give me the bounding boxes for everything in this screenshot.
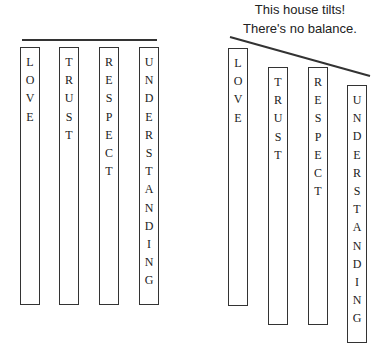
pillar-letter: N xyxy=(145,253,154,271)
pillar-letter: N xyxy=(353,109,362,127)
pillar-letter: I xyxy=(355,273,359,291)
pillar-letter: U xyxy=(274,109,283,127)
pillar-letter: I xyxy=(147,235,151,253)
pillar-letter: C xyxy=(314,164,322,182)
pillar-letter: O xyxy=(234,72,243,90)
pillar-word: RESPECT xyxy=(309,73,327,200)
pillar-letter: A xyxy=(353,218,362,236)
pillar-letter: P xyxy=(106,108,113,126)
balanced-house-pillar-trust: TRUST xyxy=(59,47,79,305)
pillar-letter: G xyxy=(145,271,154,289)
pillar-letter: N xyxy=(145,199,154,217)
pillar-letter: D xyxy=(145,217,154,235)
tilted-house-pillar-trust: TRUST xyxy=(268,67,288,325)
pillar-letter: R xyxy=(353,164,361,182)
pillar-letter: R xyxy=(65,71,73,89)
pillar-letter: S xyxy=(106,89,113,107)
pillar-letter: P xyxy=(315,128,322,146)
pillar-letter: E xyxy=(314,146,321,164)
pillar-word: LOVE xyxy=(21,53,39,126)
pillar-word: UNDERSTANDING xyxy=(348,91,366,328)
pillar-letter: R xyxy=(314,73,322,91)
tilted-house-pillar-respect: RESPECT xyxy=(308,67,328,325)
pillar-letter: A xyxy=(145,180,154,198)
pillar-letter: T xyxy=(353,200,360,218)
pillar-word: TRUST xyxy=(60,53,78,144)
pillar-letter: U xyxy=(65,89,74,107)
balanced-house-pillar-respect: RESPECT xyxy=(99,47,119,305)
tilted-house-pillar-love: LOVE xyxy=(228,48,248,306)
pillar-letter: S xyxy=(146,144,153,162)
pillar-letter: V xyxy=(234,90,243,108)
pillar-letter: R xyxy=(105,53,113,71)
pillar-letter: E xyxy=(26,108,33,126)
pillar-letter: O xyxy=(26,71,35,89)
pillar-letter: G xyxy=(353,309,362,327)
pillar-letter: E xyxy=(105,126,112,144)
balanced-house-pillar-understanding: UNDERSTANDING xyxy=(139,47,159,305)
balanced-house-pillar-love: LOVE xyxy=(20,47,40,305)
pillar-letter: S xyxy=(354,182,361,200)
pillar-letter: N xyxy=(353,291,362,309)
pillar-letter: T xyxy=(145,162,152,180)
pillar-letter: T xyxy=(274,146,281,164)
pillar-letter: E xyxy=(234,109,241,127)
pillar-letter: E xyxy=(353,146,360,164)
pillar-letter: S xyxy=(275,128,282,146)
pillar-letter: T xyxy=(105,162,112,180)
pillar-letter: R xyxy=(274,91,282,109)
diagram-stage: This house tilts! There's no balance. LO… xyxy=(0,0,391,356)
pillar-letter: D xyxy=(353,127,362,145)
pillar-letter: N xyxy=(145,71,154,89)
pillar-letter: T xyxy=(314,182,321,200)
tilted-house-pillar-understanding: UNDERSTANDING xyxy=(347,85,367,343)
pillar-letter: T xyxy=(274,73,281,91)
pillar-letter: R xyxy=(145,126,153,144)
pillar-word: LOVE xyxy=(229,54,247,127)
pillar-letter: E xyxy=(105,71,112,89)
tilted-roof-line xyxy=(230,37,370,76)
pillar-letter: V xyxy=(26,89,35,107)
pillar-word: RESPECT xyxy=(100,53,118,180)
pillar-letter: N xyxy=(353,237,362,255)
pillar-letter: U xyxy=(145,53,154,71)
pillar-letter: S xyxy=(315,109,322,127)
pillar-letter: T xyxy=(65,126,72,144)
pillar-letter: E xyxy=(314,91,321,109)
pillar-letter: D xyxy=(145,89,154,107)
pillar-letter: D xyxy=(353,255,362,273)
pillar-letter: E xyxy=(145,108,152,126)
pillar-letter: C xyxy=(105,144,113,162)
pillar-letter: T xyxy=(65,53,72,71)
pillar-letter: L xyxy=(234,54,241,72)
pillar-word: TRUST xyxy=(269,73,287,164)
pillar-letter: S xyxy=(66,108,73,126)
pillar-letter: U xyxy=(353,91,362,109)
pillar-word: UNDERSTANDING xyxy=(140,53,158,290)
pillar-letter: L xyxy=(26,53,33,71)
